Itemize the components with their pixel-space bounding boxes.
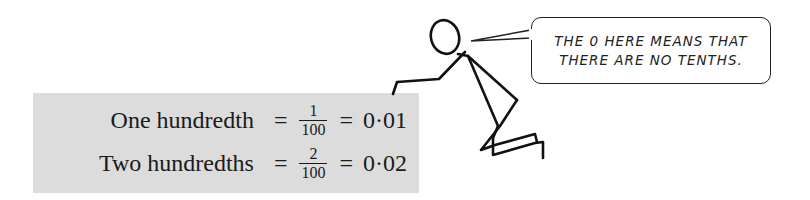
equation-label: One hundredth	[111, 107, 254, 134]
fraction-denominator: 100	[299, 122, 327, 138]
equals-sign: =	[274, 150, 288, 177]
speech-bubble: THE 0 HERE MEANS THAT THERE ARE NO TENTH…	[531, 17, 771, 84]
speech-bubble-tail-icon	[471, 30, 531, 41]
speech-bubble-line: THERE ARE NO TENTHS.	[532, 51, 770, 70]
fraction-numerator: 1	[307, 103, 319, 119]
equals-sign: =	[339, 107, 353, 134]
equation-label: Two hundredths	[99, 150, 254, 177]
speech-bubble-tail-cover	[527, 26, 535, 42]
fraction: 2 100	[299, 146, 327, 181]
fraction-numerator: 2	[307, 146, 319, 162]
stick-figure-head-icon	[427, 17, 463, 57]
stick-figure-body-icon	[458, 54, 517, 100]
equals-sign: =	[274, 107, 288, 134]
equation-panel: One hundredth = 1 100 = 0·01 Two hundred…	[33, 93, 419, 193]
speech-bubble-text: THE 0 HERE MEANS THAT THERE ARE NO TENTH…	[532, 32, 770, 70]
equals-sign: =	[339, 150, 353, 177]
equation-row-two-hundredths: Two hundredths = 2 100 = 0·02	[99, 146, 407, 181]
fraction: 1 100	[299, 103, 327, 138]
stick-figure-arm-icon	[393, 52, 465, 94]
speech-bubble-line: THE 0 HERE MEANS THAT	[532, 32, 770, 51]
equation-row-one-hundredth: One hundredth = 1 100 = 0·01	[111, 103, 407, 138]
fraction-denominator: 100	[299, 165, 327, 181]
